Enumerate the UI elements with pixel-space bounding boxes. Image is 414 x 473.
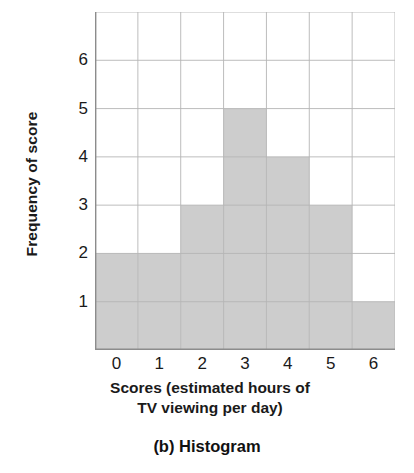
plot-area (95, 12, 395, 350)
x-tick-label: 1 (138, 355, 180, 372)
x-axis-title: Scores (estimated hours of TV viewing pe… (40, 378, 380, 419)
y-tick-label: 4 (48, 148, 88, 165)
figure-caption: (b) Histogram (0, 437, 414, 456)
y-tick-label: 1 (48, 293, 88, 310)
histogram-bar (181, 205, 224, 350)
x-tick-label: 3 (224, 355, 266, 372)
bars-group (95, 109, 395, 350)
x-axis-title-line-1: Scores (estimated hours of (40, 378, 380, 398)
x-tick-label: 5 (310, 355, 352, 372)
y-tick-label: 5 (48, 100, 88, 117)
histogram-plot-svg (95, 12, 395, 350)
x-tick-label: 2 (181, 355, 223, 372)
y-tick-label: 3 (48, 196, 88, 213)
histogram-bar (352, 302, 395, 350)
x-tick-label: 4 (267, 355, 309, 372)
histogram-bar (309, 205, 352, 350)
y-tick-label: 2 (48, 244, 88, 261)
x-tick-label: 0 (95, 355, 137, 372)
x-tick-label: 6 (353, 355, 395, 372)
histogram-bar (224, 109, 267, 350)
histogram-figure: Frequency of score 123456 0123456 Scores… (0, 0, 414, 473)
x-axis-title-line-2: TV viewing per day) (40, 398, 380, 418)
y-tick-label: 6 (48, 51, 88, 68)
y-axis-title: Frequency of score (23, 74, 41, 294)
